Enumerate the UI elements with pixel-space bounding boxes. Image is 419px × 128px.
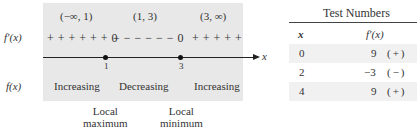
cell-x: 4: [299, 85, 305, 97]
cell-sign: (+): [387, 47, 407, 59]
critical-point-label-1: 1: [104, 61, 109, 71]
function-row-label: f(x): [6, 80, 21, 92]
critical-point-dot-3: [178, 55, 183, 60]
sign-segment-positive-2: + + + + +: [192, 31, 242, 46]
interval-label-1: (−∞, 1): [60, 10, 92, 22]
table-header-row: x f′(x): [289, 25, 417, 44]
annotation-line: maximum: [83, 117, 128, 128]
header-x: x: [298, 28, 304, 40]
derivative-row-label: f′(x): [4, 31, 22, 43]
behavior-interval-2: Decreasing: [119, 80, 168, 92]
table-row: 2 −3 (−): [289, 63, 417, 82]
header-derivative: f′(x): [366, 28, 384, 40]
table-row: 0 9 (+): [289, 44, 417, 63]
table-header-rule: [289, 22, 417, 23]
table-title: Test Numbers: [323, 6, 390, 21]
local-minimum-annotation: Local minimum: [160, 105, 203, 128]
cell-value: 9: [371, 85, 377, 97]
table-row: 4 9 (+): [289, 82, 417, 101]
sign-segment-negative: − − − − − − 0: [113, 31, 184, 46]
critical-point-dot-1: [103, 55, 108, 60]
annotation-line: Local: [160, 105, 203, 117]
cell-value: 9: [371, 47, 377, 59]
number-line-axis: [43, 57, 255, 58]
interval-label-2: (1, 3): [133, 10, 157, 22]
cell-x: 0: [299, 47, 305, 59]
axis-label: x: [262, 50, 267, 62]
axis-arrow-icon: [253, 54, 260, 60]
sign-segment-positive-1: + + + + + + 0: [47, 31, 118, 46]
local-maximum-annotation: Local maximum: [83, 105, 128, 128]
interval-label-3: (3, ∞): [200, 10, 226, 22]
behavior-interval-3: Increasing: [194, 80, 240, 92]
behavior-interval-1: Increasing: [54, 80, 100, 92]
annotation-line: Local: [83, 105, 128, 117]
cell-sign: (−): [387, 66, 407, 78]
cell-value: −3: [364, 66, 376, 78]
critical-point-label-3: 3: [179, 61, 184, 71]
cell-x: 2: [299, 66, 305, 78]
annotation-line: minimum: [160, 117, 203, 128]
cell-sign: (+): [387, 85, 407, 97]
